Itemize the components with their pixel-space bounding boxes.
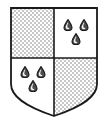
shield-canvas: Quartered heraldic shield with gouttes (0, 0, 109, 124)
quarter-1-checky-fill (11, 8, 54, 58)
heraldic-shield-figure: Quartered heraldic shield with gouttes (0, 0, 109, 124)
quarter-1-top-left (11, 8, 54, 58)
